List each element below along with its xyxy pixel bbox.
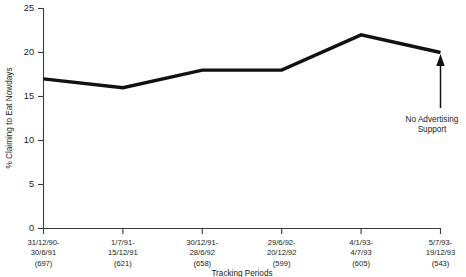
x-tick-sample-size: (658) — [193, 259, 211, 268]
x-axis-title: Tracking Periods — [211, 269, 272, 277]
x-tick-label: 4/7/93 — [351, 248, 372, 257]
x-tick-label: 1/7/91- — [111, 238, 135, 247]
x-tick-label: 15/12/91 — [108, 248, 138, 257]
x-tick-label: 28/6/92 — [190, 248, 215, 257]
y-tick-label: 15 — [24, 91, 34, 101]
annotation-arrow — [436, 54, 444, 108]
y-axis-ticks: 25 20 15 10 5 0 — [24, 3, 44, 233]
x-tick-label: 5/7/93- — [429, 238, 453, 247]
line-chart: % Claiming to Eat Nowdays 25 20 15 10 5 … — [0, 0, 466, 277]
chart-figure: % Claiming to Eat Nowdays 25 20 15 10 5 … — [0, 0, 466, 277]
y-tick-label: 0 — [29, 223, 34, 233]
y-tick-label: 20 — [24, 47, 34, 57]
x-tick-sample-size: (543) — [432, 259, 450, 268]
x-tick-label: 30/12/91- — [186, 238, 219, 247]
x-tick-label: 31/12/90- — [27, 238, 60, 247]
x-tick-sample-size: (605) — [352, 259, 370, 268]
data-series-line — [44, 35, 441, 88]
x-axis-ticks: 31/12/90- 30/6/91 (697) 1/7/91- 15/12/91… — [27, 229, 455, 269]
x-tick-sample-size: (621) — [114, 259, 132, 268]
annotation-label-line1: No Advertising — [406, 115, 459, 124]
y-axis-title: % Claiming to Eat Nowdays — [5, 67, 14, 168]
annotation-label-line2: Support — [418, 125, 447, 134]
x-tick-label: 30/6/91 — [31, 248, 56, 257]
y-tick-label: 25 — [24, 3, 34, 13]
y-tick-label: 5 — [29, 179, 34, 189]
x-tick-label: 19/12/93 — [426, 248, 456, 257]
y-tick-label: 10 — [24, 135, 34, 145]
x-tick-sample-size: (697) — [35, 259, 53, 268]
x-tick-label: 29/6/92- — [268, 238, 296, 247]
x-tick-label: 20/12/92 — [267, 248, 297, 257]
x-tick-sample-size: (599) — [273, 259, 291, 268]
x-tick-label: 4/1/93- — [349, 238, 373, 247]
